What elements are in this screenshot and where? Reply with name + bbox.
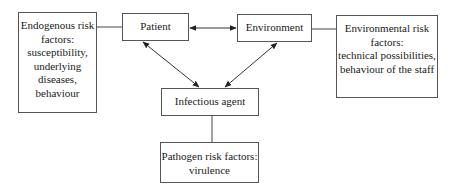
- infection-risk-diagram: Endogenous risk factors: susceptibility,…: [0, 0, 453, 192]
- arrow-environment-agent: [225, 43, 277, 87]
- arrow-patient-agent: [143, 42, 199, 87]
- endogenous-risk-factors-label: Endogenous risk factors: susceptibility,…: [21, 19, 95, 100]
- patient-box: Patient: [122, 13, 189, 41]
- environmental-risk-factors-box: Environmental risk factors: technical po…: [336, 15, 438, 98]
- environment-box: Environment: [237, 14, 312, 42]
- pathogen-risk-factors-label: Pathogen risk factors: virulence: [162, 150, 258, 177]
- infectious-agent-box: Infectious agent: [161, 88, 259, 116]
- infectious-agent-label: Infectious agent: [175, 95, 246, 109]
- environmental-risk-factors-label: Environmental risk factors: technical po…: [338, 22, 436, 76]
- endogenous-risk-factors-box: Endogenous risk factors: susceptibility,…: [18, 12, 97, 113]
- patient-label: Patient: [140, 20, 171, 34]
- environment-label: Environment: [246, 21, 303, 35]
- pathogen-risk-factors-box: Pathogen risk factors: virulence: [160, 142, 259, 183]
